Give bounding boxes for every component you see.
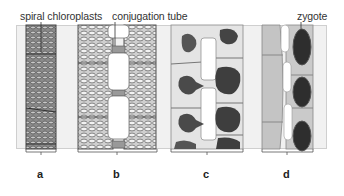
panel-letter-a: a — [37, 168, 43, 180]
panel-letter-c: c — [203, 168, 209, 180]
bracket-c — [171, 149, 243, 155]
panel-letter-b: b — [113, 168, 120, 180]
panel-c-filaments — [171, 25, 243, 149]
panel-d-filaments — [262, 25, 313, 151]
bracket-b — [78, 149, 157, 155]
zygote-1 — [293, 29, 311, 65]
zygote-3 — [293, 121, 311, 151]
panel-b-filaments — [78, 25, 156, 149]
bracket-a — [26, 149, 56, 155]
zygote-2 — [293, 77, 311, 107]
spirogyra-illustration — [0, 0, 344, 196]
panel-letter-d: d — [283, 168, 290, 180]
